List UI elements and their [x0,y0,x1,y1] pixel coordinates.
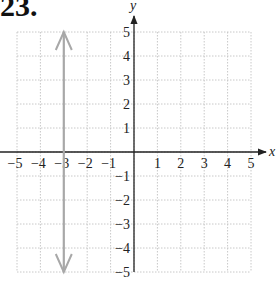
x-tick-label: 1 [154,156,161,171]
y-axis-label: y [128,0,137,13]
x-axis-label: x [268,144,276,159]
x-tick-label: −2 [78,156,93,171]
y-tick-label: 5 [123,25,130,40]
y-tick-label: 2 [123,97,130,112]
x-tick-label: 5 [248,156,255,171]
x-tick-label: 2 [177,156,184,171]
x-tick-label: −3 [54,156,69,171]
y-tick-label: 1 [123,121,130,136]
x-tick-label: 4 [224,156,231,171]
x-tick-label: −5 [8,156,23,171]
y-tick-label: −5 [115,265,130,280]
x-tick-label: −1 [101,156,116,171]
y-tick-label: 4 [123,49,130,64]
y-tick-label: −1 [115,169,130,184]
y-tick-label: −3 [115,217,130,232]
y-tick-label: −4 [115,241,130,256]
y-tick-label: 3 [123,73,130,88]
coordinate-plane: −5−4−3−2−11234554321−1−2−3−4−5 x y [0,0,280,281]
x-tick-label: 3 [201,156,208,171]
y-tick-label: −2 [115,193,130,208]
x-tick-label: −4 [31,156,46,171]
